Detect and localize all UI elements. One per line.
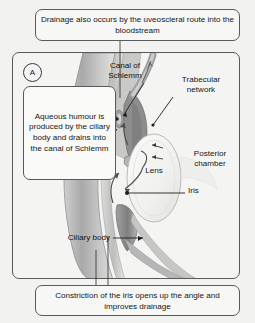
label-trabecular-network: Trabecular network: [170, 75, 232, 96]
top-caption-box: Drainage also occurs by the uveoscleral …: [35, 9, 240, 41]
callout-aqueous-text: Aqueous humour is produced by the ciliar…: [27, 112, 112, 154]
label-ciliary-body: Ciliary body: [48, 233, 110, 243]
callout-aqueous-humour: Aqueous humour is produced by the ciliar…: [23, 86, 116, 180]
figure-canvas: Drainage also occurs by the uveoscleral …: [0, 0, 255, 323]
bottom-caption-box: Constriction of the iris opens up the an…: [35, 285, 240, 316]
label-posterior-chamber: Posterior chamber: [184, 149, 236, 170]
label-iris: Iris: [188, 186, 214, 196]
diagram-panel: A Aqueous humour is produced by the cili…: [12, 52, 240, 279]
bottom-caption-text: Constriction of the iris opens up the an…: [41, 290, 234, 312]
label-lens: Lens: [137, 166, 171, 176]
label-canal-of-schlemm: Canal of Schlemm: [92, 61, 158, 82]
top-caption-text: Drainage also occurs by the uveoscleral …: [41, 14, 234, 36]
